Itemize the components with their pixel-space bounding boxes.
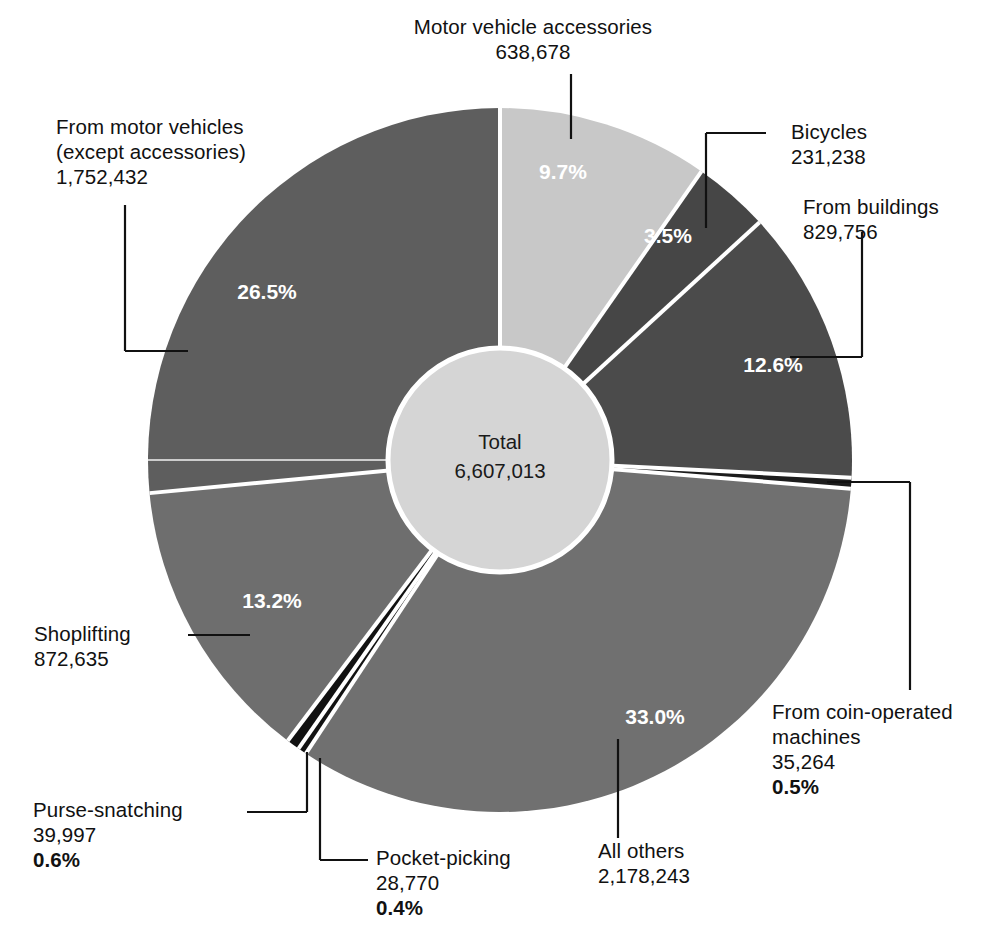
callout-pct: 0.4% <box>376 895 511 920</box>
callout-label-line2: (except accessories) <box>56 139 246 164</box>
callout-label: Shoplifting <box>34 621 131 646</box>
callout-value: 829,756 <box>803 219 939 244</box>
callout-label: Pocket-picking <box>376 845 511 870</box>
callout-value: 638,678 <box>323 39 743 64</box>
callout-label-line2: machines <box>772 724 953 749</box>
callout-pct: 0.5% <box>772 774 953 799</box>
slice-pct-all-others: 33.0% <box>625 705 685 728</box>
callout-value: 1,752,432 <box>56 164 246 189</box>
callout-value: 28,770 <box>376 870 511 895</box>
callout-value: 2,178,243 <box>598 863 690 888</box>
callout-label: All others <box>598 838 690 863</box>
slice-pct-from-motor-vehicles: 26.5% <box>237 280 297 303</box>
callout-label: Motor vehicle accessories <box>323 14 743 39</box>
callout-label: Bicycles <box>791 119 867 144</box>
callout-shoplifting: Shoplifting 872,635 <box>34 621 131 671</box>
callout-value: 872,635 <box>34 646 131 671</box>
center-total-value: 6,607,013 <box>454 459 545 482</box>
slice-pct-motor-vehicle-accessories: 9.7% <box>539 160 587 183</box>
callout-label: From buildings <box>803 194 939 219</box>
pie-chart: 9.7%3.5%12.6%33.0%13.2%26.5%Total6,607,0… <box>0 0 997 946</box>
callout-label-line1: From coin-operated <box>772 699 953 724</box>
callout-label-line1: From motor vehicles <box>56 114 246 139</box>
callout-pct: 0.6% <box>33 847 243 872</box>
callout-motor-vehicle-accessories: Motor vehicle accessories 638,678 <box>323 14 743 64</box>
slice-pct-bicycles: 3.5% <box>644 224 692 247</box>
callout-all-others: All others 2,178,243 <box>598 838 690 888</box>
callout-pocket-picking: Pocket-picking 28,770 0.4% <box>376 845 511 920</box>
slice-pct-shoplifting: 13.2% <box>242 589 302 612</box>
callout-value: 35,264 <box>772 749 953 774</box>
callout-from-buildings: From buildings 829,756 <box>803 194 939 244</box>
callout-label: Purse-snatching <box>33 797 243 822</box>
callout-value: 231,238 <box>791 144 867 169</box>
callout-from-coin-operated-machines: From coin-operated machines 35,264 0.5% <box>772 699 953 799</box>
callout-purse-snatching: Purse-snatching 39,997 0.6% <box>33 797 243 872</box>
callout-value: 39,997 <box>33 822 243 847</box>
callout-from-motor-vehicles: From motor vehicles (except accessories)… <box>56 114 246 189</box>
callout-bicycles: Bicycles 231,238 <box>791 119 867 169</box>
center-total-label: Total <box>478 430 521 453</box>
